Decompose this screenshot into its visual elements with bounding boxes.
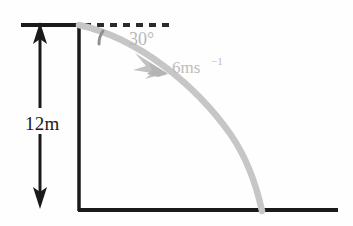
speed-label: 6ms (172, 58, 200, 77)
projectile-diagram-canvas: 12m 30° 6ms −1 (0, 0, 353, 226)
physics-diagram-svg: 12m 30° 6ms −1 (0, 0, 353, 226)
angle-label: 30° (129, 29, 154, 49)
height-label: 12m (25, 113, 60, 134)
speed-exponent-label: −1 (211, 55, 223, 67)
